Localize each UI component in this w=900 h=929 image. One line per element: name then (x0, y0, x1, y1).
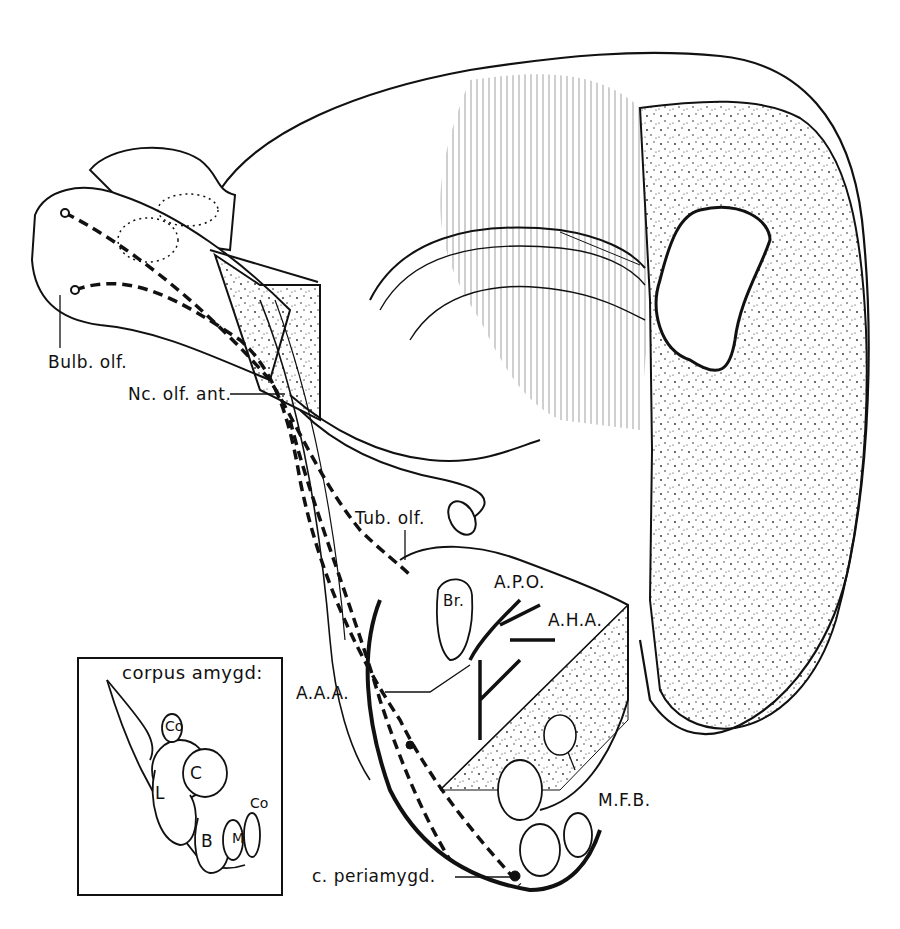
ventral-forebrain (368, 547, 628, 890)
inset-nucleus-b: B (201, 831, 213, 851)
inset-nucleus-c: C (190, 763, 202, 783)
inset-nucleus-co-top: Co (165, 718, 183, 734)
inset-nucleus-m: M (232, 830, 244, 846)
inset-nucleus-co-right: Co (250, 795, 268, 811)
inset-nucleus-l: L (155, 783, 164, 803)
label-cortex-periamygdaloideus: c. periamygd. (312, 866, 436, 886)
label-tuberculum-olfactorium: Tub. olf. (355, 508, 425, 528)
label-nucleus-olfactorius-anterior: Nc. olf. ant. (128, 384, 231, 404)
inset-amygdala-diagram (78, 658, 282, 895)
label-aaa: A.A.A. (296, 683, 349, 703)
label-aha: A.H.A. (548, 610, 602, 630)
label-mfb: M.F.B. (598, 790, 651, 810)
label-bulbus-olfactorius: Bulb. olf. (48, 352, 127, 372)
label-apo: A.P.O. (494, 572, 545, 592)
label-br: Br. (443, 592, 464, 610)
inset-title: corpus amygd: (122, 662, 263, 683)
brain-illustration (0, 0, 900, 929)
